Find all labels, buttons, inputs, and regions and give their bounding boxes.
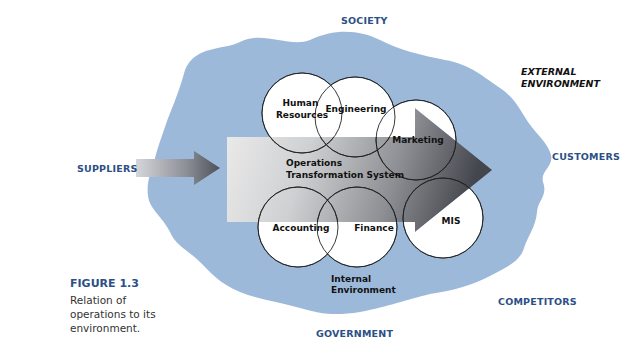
external-environment-heading: EXTERNAL ENVIRONMENT bbox=[521, 66, 600, 90]
stakeholder-society: SOCIETY bbox=[341, 15, 388, 26]
external-heading-line-1: EXTERNAL bbox=[521, 66, 600, 78]
label-accounting: Accounting bbox=[273, 223, 330, 233]
stakeholder-customers: CUSTOMERS bbox=[552, 151, 620, 162]
external-heading-line-2: ENVIRONMENT bbox=[521, 78, 600, 90]
label-finance: Finance bbox=[354, 223, 394, 233]
caption-line-2: operations to its bbox=[70, 307, 180, 321]
stakeholder-suppliers: SUPPLIERS bbox=[77, 163, 138, 174]
figure-diagram: Human Resources Engineering Marketing Ac… bbox=[0, 0, 639, 353]
caption-line-1: Relation of bbox=[70, 293, 180, 307]
stakeholder-government: GOVERNMENT bbox=[316, 328, 393, 339]
label-marketing: Marketing bbox=[392, 135, 444, 145]
figure-number: FIGURE 1.3 bbox=[70, 277, 139, 290]
caption-line-3: environment. bbox=[70, 321, 180, 335]
label-mis: MIS bbox=[442, 216, 461, 226]
stakeholder-competitors: COMPETITORS bbox=[498, 296, 577, 307]
figure-caption: Relation of operations to its environmen… bbox=[70, 293, 180, 335]
label-engineering: Engineering bbox=[325, 104, 386, 114]
